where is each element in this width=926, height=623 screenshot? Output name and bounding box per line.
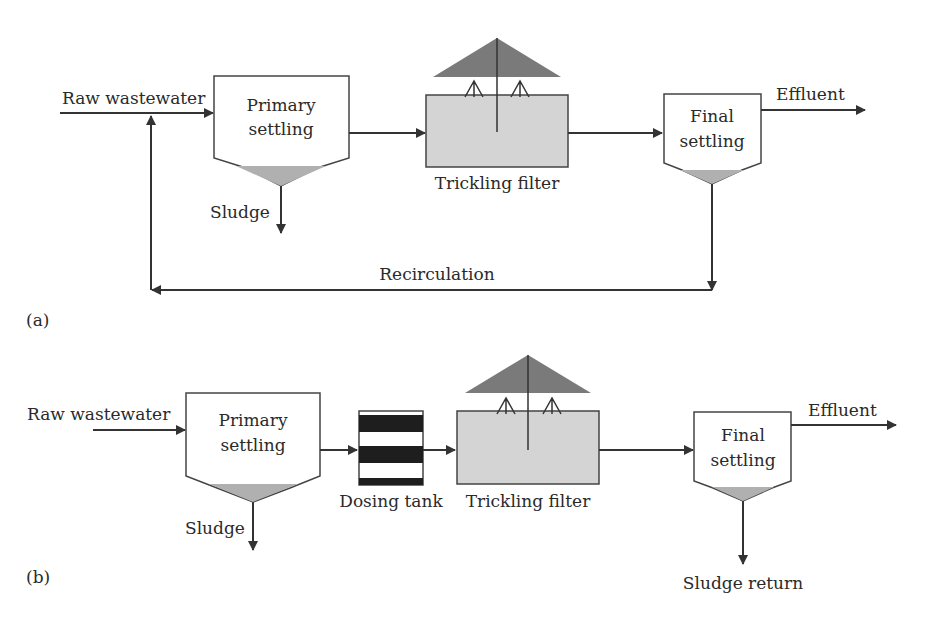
panel-label-a: (a) xyxy=(26,310,49,330)
primary-label-2: settling xyxy=(220,435,285,455)
primary-settling-tank: Primary settling xyxy=(214,76,349,186)
trickling-filter-label: Trickling filter xyxy=(435,173,561,193)
final-label-1: Final xyxy=(690,106,734,126)
dosing-tank-label: Dosing tank xyxy=(339,491,443,511)
recirculation-label: Recirculation xyxy=(379,264,494,284)
final-label-1: Final xyxy=(721,425,765,445)
trickling-filter xyxy=(457,355,599,484)
final-settling-tank: Final settling xyxy=(664,94,761,184)
raw-wastewater-label: Raw wastewater xyxy=(27,404,171,424)
sludge-zone xyxy=(209,484,298,502)
diagram-a: Raw wastewater Primary settling Sludge T… xyxy=(26,38,865,330)
trickling-filter xyxy=(426,38,568,167)
sludge-zone xyxy=(236,166,326,186)
primary-label-1: Primary xyxy=(247,95,316,115)
sludge-zone xyxy=(712,487,774,501)
primary-label-2: settling xyxy=(248,119,313,139)
trickling-filter-label: Trickling filter xyxy=(466,491,592,511)
wastewater-flow-diagrams: Raw wastewater Primary settling Sludge T… xyxy=(0,0,926,623)
panel-label-b: (b) xyxy=(26,567,50,587)
raw-wastewater-label: Raw wastewater xyxy=(62,88,206,108)
final-settling-tank: Final settling xyxy=(694,412,791,501)
primary-settling-tank: Primary settling xyxy=(186,393,320,502)
diagram-b: Raw wastewater Primary settling Sludge D… xyxy=(26,355,896,593)
primary-label-1: Primary xyxy=(219,410,288,430)
sludge-zone xyxy=(680,170,744,184)
dosing-tank xyxy=(359,411,423,485)
primary-sludge-label: Sludge xyxy=(210,202,270,222)
effluent-label: Effluent xyxy=(776,84,845,104)
final-label-2: settling xyxy=(710,450,775,470)
primary-sludge-label: Sludge xyxy=(185,518,245,538)
effluent-label: Effluent xyxy=(808,400,877,420)
final-label-2: settling xyxy=(679,131,744,151)
sludge-return-label: Sludge return xyxy=(683,573,803,593)
